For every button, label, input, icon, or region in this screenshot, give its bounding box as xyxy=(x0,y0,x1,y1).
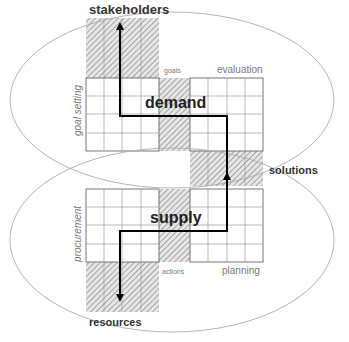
supply-label: supply xyxy=(150,209,202,226)
demand-supply-diagram: stakeholders goals evaluation goal setti… xyxy=(0,0,349,342)
stakeholders-block xyxy=(86,18,159,78)
goals-column xyxy=(159,78,190,151)
goals-label: goals xyxy=(164,67,181,75)
resources-label: resources xyxy=(89,316,142,328)
actions-label: actions xyxy=(162,268,185,275)
grid-goal-setting xyxy=(86,78,159,151)
planning-label: planning xyxy=(222,265,260,276)
demand-label: demand xyxy=(145,94,206,111)
grid-procurement xyxy=(86,189,159,262)
solutions-label: solutions xyxy=(269,164,318,176)
procurement-label: procurement xyxy=(72,205,83,263)
goal-setting-label: goal setting xyxy=(72,84,83,136)
resources-block xyxy=(86,262,159,312)
stakeholders-label: stakeholders xyxy=(89,2,169,17)
evaluation-label: evaluation xyxy=(217,64,263,75)
